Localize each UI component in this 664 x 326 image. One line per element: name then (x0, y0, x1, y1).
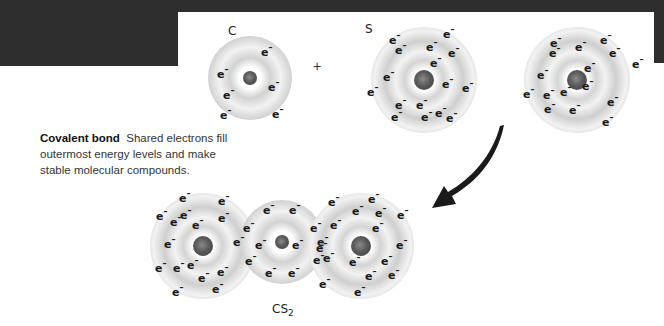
electron-label: e– (217, 264, 228, 278)
electron-label: e– (268, 79, 279, 93)
electron-label: e– (261, 44, 272, 58)
electron-label: e– (367, 84, 378, 98)
nucleus-icon (275, 235, 289, 249)
electron-label: e– (317, 234, 328, 248)
electron-label: e– (180, 207, 191, 221)
electron-label: e– (288, 265, 299, 279)
element-symbol: C (228, 24, 236, 38)
electron-label: e– (584, 60, 595, 74)
electron-label: e– (352, 203, 363, 217)
electron-label: e– (164, 236, 175, 250)
electron-label: e– (187, 257, 198, 271)
electron-label: e– (220, 107, 231, 121)
electron-label: e– (602, 114, 613, 128)
electron-label: e– (381, 253, 392, 267)
electron-label: e– (442, 76, 453, 90)
electron-label: e– (537, 67, 548, 81)
electron-label: e– (435, 105, 446, 119)
electron-label: e– (223, 87, 234, 101)
electron-label: e– (397, 207, 408, 221)
electron-label: e– (569, 102, 580, 116)
electron-label: e– (255, 237, 266, 251)
electron-label: e– (173, 260, 184, 274)
element-symbol: S (365, 22, 373, 36)
electron-label: e– (233, 234, 244, 248)
electron-label: e– (443, 26, 454, 40)
electron-label: e– (600, 32, 611, 46)
electron-label: e– (292, 237, 303, 251)
electron-label: e– (609, 45, 620, 59)
electron-label: e– (365, 268, 376, 282)
electron-label: e– (395, 42, 406, 56)
nucleus-icon (351, 236, 371, 256)
electron-label: e– (310, 220, 321, 234)
electron-label: e– (632, 56, 643, 70)
electron-label: e– (544, 101, 555, 115)
electron-label: e– (349, 254, 360, 268)
plus-sign: + (313, 58, 321, 74)
product-formula: CS (272, 302, 288, 316)
electron-label: e– (388, 267, 399, 281)
electron-label: e– (354, 284, 365, 298)
header-band-left (0, 0, 178, 66)
product-label: CS2 (272, 302, 294, 318)
electron-label: e– (172, 284, 183, 298)
electron-label: e– (560, 84, 571, 98)
electron-label: e– (549, 45, 560, 59)
electron-label: e– (462, 80, 473, 94)
electron-label: e– (391, 109, 402, 123)
electron-label: e– (543, 87, 554, 101)
figure-panel-right (640, 63, 664, 326)
electron-label: e– (430, 55, 441, 69)
electron-label: e– (272, 106, 283, 120)
electron-label: e– (156, 208, 167, 222)
electron-label: e– (448, 45, 459, 59)
electron-label: e– (263, 202, 274, 216)
caption-title: Covalent bond (40, 132, 120, 144)
electron-label: e– (192, 217, 203, 231)
electron-label: e– (328, 194, 339, 208)
reaction-arrow-icon (430, 120, 550, 220)
electron-label: e– (368, 191, 379, 205)
electron-label: e– (523, 86, 534, 100)
nucleus-icon (243, 71, 257, 85)
electron-label: e– (575, 39, 586, 53)
electron-label: e– (212, 281, 223, 295)
electron-label: e– (245, 253, 256, 267)
nucleus-icon (193, 236, 213, 256)
electron-label: e– (396, 237, 407, 251)
electron-label: e– (243, 220, 254, 234)
electron-label: e– (265, 265, 276, 279)
electron-label: e– (330, 217, 341, 231)
electron-label: e– (218, 210, 229, 224)
electron-label: e– (607, 94, 618, 108)
product-subscript: 2 (288, 308, 294, 318)
nucleus-icon (414, 70, 434, 90)
header-band-right (654, 0, 664, 63)
electron-label: e– (198, 270, 209, 284)
electron-label: e– (155, 260, 166, 274)
electron-label: e– (179, 190, 190, 204)
electron-label: e– (375, 205, 386, 219)
electron-label: e– (372, 220, 383, 234)
caption: Covalent bond Shared electrons fill oute… (40, 130, 240, 178)
electron-label: e– (289, 202, 300, 216)
electron-label: e– (217, 66, 228, 80)
electron-label: e– (426, 39, 437, 53)
electron-label: e– (218, 193, 229, 207)
electron-label: e– (582, 78, 593, 92)
electron-label: e– (323, 250, 334, 264)
electron-label: e– (383, 69, 394, 83)
electron-label: e– (319, 276, 330, 290)
